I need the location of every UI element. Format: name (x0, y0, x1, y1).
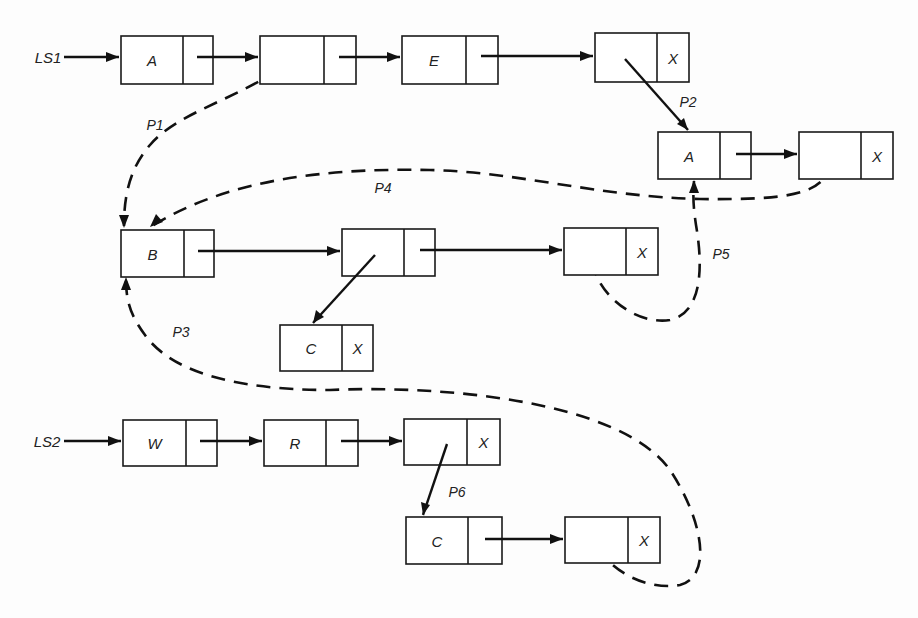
list-node (342, 229, 435, 276)
linked-list-diagram: LS1 LS2 P1 P2 P3 P4 P5 P6 AEXAXBXCXWRXCX (0, 0, 918, 618)
pointer-label-p6: P6 (448, 485, 465, 499)
node-box (123, 420, 217, 466)
arrowhead-icon (245, 52, 258, 62)
arrowhead-icon (389, 436, 402, 446)
arrowhead-icon (580, 51, 593, 61)
node-info-field: R (290, 436, 301, 451)
node-next-field: X (352, 341, 362, 356)
node-info-field: W (147, 436, 161, 451)
node-box (260, 36, 356, 84)
list-nodes (121, 33, 893, 564)
pointer-label-p1: P1 (146, 118, 163, 132)
node-box (342, 229, 435, 276)
list-head-label-ls2: LS2 (34, 434, 61, 449)
arrowhead-icon (119, 215, 129, 228)
node-box (121, 36, 213, 84)
list-node (260, 36, 356, 84)
arrowhead-icon (689, 180, 699, 193)
list-node (658, 132, 751, 179)
list-node (121, 230, 214, 277)
arrowhead-icon (150, 214, 163, 227)
pointer-label-p5: P5 (712, 247, 729, 261)
list-head-label-ls1: LS1 (35, 50, 62, 65)
arrowhead-icon (549, 245, 562, 255)
node-next-field: X (637, 244, 647, 259)
node-next-field: X (478, 435, 488, 450)
node-box (121, 230, 214, 277)
node-next-field: X (872, 148, 882, 163)
list-node (406, 517, 502, 564)
node-next-field: X (639, 533, 649, 548)
node-info-field: C (432, 533, 443, 548)
arrowhead-icon (784, 149, 797, 159)
list-node (264, 420, 358, 466)
arrowhead-icon (550, 534, 563, 544)
node-info-field: E (429, 53, 439, 68)
list-node (123, 420, 217, 466)
list-node (121, 36, 213, 84)
arrowhead-icon (106, 52, 119, 62)
node-box (406, 517, 502, 564)
arrowhead-icon (249, 436, 262, 446)
node-box (402, 36, 498, 84)
node-box (658, 132, 751, 179)
node-info-field: C (306, 341, 317, 356)
arrowhead-icon (108, 436, 121, 446)
arrowhead-icon (327, 246, 340, 256)
arrowhead-icon (121, 277, 131, 290)
node-info-field: B (147, 246, 157, 261)
arrowhead-icon (387, 52, 400, 62)
arrowhead-icon (421, 502, 430, 515)
node-info-field: A (684, 148, 694, 163)
pointer-label-p2: P2 (679, 95, 696, 109)
node-info-field: A (147, 53, 157, 68)
node-box (264, 420, 358, 466)
node-next-field: X (668, 50, 678, 65)
list-node (402, 36, 498, 84)
pointer-label-p4: P4 (374, 181, 391, 195)
pointer-label-p3: P3 (172, 325, 189, 339)
diagram-canvas (0, 0, 918, 618)
